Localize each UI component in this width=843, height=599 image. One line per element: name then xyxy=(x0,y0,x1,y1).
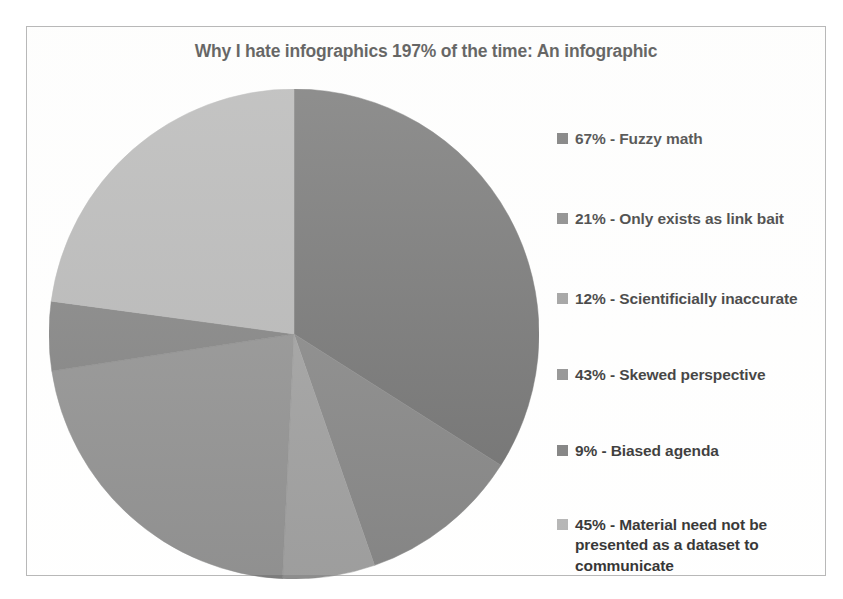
legend-color-swatch xyxy=(557,133,568,144)
legend-item[interactable]: 9% - Biased agenda xyxy=(557,441,819,461)
chart-legend: 67% - Fuzzy math21% - Only exists as lin… xyxy=(557,93,819,573)
chart-title: Why I hate infographics 197% of the time… xyxy=(27,41,825,62)
legend-item-label: 9% - Biased agenda xyxy=(575,441,719,461)
legend-item-label: 12% - Scientificially inaccurate xyxy=(575,289,798,309)
pie-chart-svg[interactable]: 67% - Fuzzy math21% - Only exists as lin… xyxy=(49,89,539,579)
legend-color-swatch xyxy=(557,213,568,224)
legend-color-swatch xyxy=(557,445,568,456)
legend-color-swatch xyxy=(557,519,568,530)
legend-color-swatch xyxy=(557,293,568,304)
chart-frame: Why I hate infographics 197% of the time… xyxy=(26,26,826,576)
legend-item[interactable]: 21% - Only exists as link bait xyxy=(557,209,819,229)
legend-item-label: 43% - Skewed perspective xyxy=(575,365,766,385)
legend-item[interactable]: 12% - Scientificially inaccurate xyxy=(557,289,819,309)
legend-item-label: 67% - Fuzzy math xyxy=(575,129,703,149)
pie-slice[interactable]: 43% - Skewed perspective xyxy=(52,334,294,579)
legend-item-label: 45% - Material need not be presented as … xyxy=(575,515,819,576)
legend-item[interactable]: 67% - Fuzzy math xyxy=(557,129,819,149)
legend-item[interactable]: 45% - Material need not be presented as … xyxy=(557,515,819,576)
legend-item-label: 21% - Only exists as link bait xyxy=(575,209,784,229)
pie-chart[interactable]: 67% - Fuzzy math21% - Only exists as lin… xyxy=(49,89,539,579)
legend-color-swatch xyxy=(557,369,568,380)
legend-item[interactable]: 43% - Skewed perspective xyxy=(557,365,819,385)
pie-slice[interactable]: 45% - Material need not be presented as … xyxy=(51,89,294,334)
